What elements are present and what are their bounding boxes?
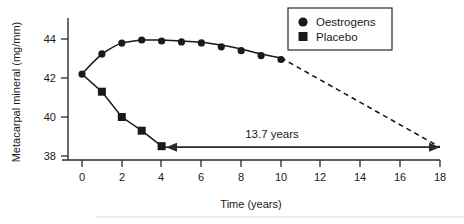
chart-legend: Oestrogens Placebo [288, 8, 392, 50]
metacarpal-mineral-line-chart: 44 42 40 38 0 2 4 6 8 10 12 14 16 [0, 0, 464, 224]
legend-marker-circle-icon [298, 17, 307, 26]
annotation-13-7-years: 13.7 years [166, 128, 440, 152]
oestrogens-point-6 [198, 39, 205, 46]
placebo-point-2 [118, 113, 126, 121]
oestrogens-point-8 [238, 47, 245, 54]
x-axis-tick-labels: 0 2 4 6 8 10 12 14 16 18 [79, 171, 446, 183]
placebo-point-4 [158, 142, 166, 150]
oestrogens-point-9 [258, 52, 265, 59]
x-tick-label-2: 2 [119, 171, 125, 183]
y-axis-title: Metacarpal mineral (mg/mm) [10, 22, 22, 163]
y-axis-tick-labels: 44 42 40 38 [44, 33, 56, 162]
x-tick-label-8: 8 [238, 171, 244, 183]
annotation-arrow-head-left [166, 143, 177, 152]
chart-figure: 44 42 40 38 0 2 4 6 8 10 12 14 16 [0, 0, 464, 224]
oestrogens-point-2 [118, 40, 125, 47]
placebo-point-3 [138, 127, 146, 135]
x-tick-label-0: 0 [79, 171, 85, 183]
oestrogens-point-1 [98, 50, 105, 57]
x-tick-label-14: 14 [354, 171, 366, 183]
y-tick-label-40: 40 [44, 111, 56, 123]
legend-label-oestrogens: Oestrogens [316, 16, 376, 28]
legend-box [288, 8, 392, 50]
x-tick-label-16: 16 [394, 171, 406, 183]
oestrogens-point-4 [158, 37, 165, 44]
x-tick-label-10: 10 [275, 171, 287, 183]
y-tick-label-42: 42 [44, 72, 56, 84]
y-tick-label-38: 38 [44, 150, 56, 162]
x-tick-label-18: 18 [434, 171, 446, 183]
annotation-arrow-head-right [429, 143, 440, 152]
oestrogens-point-10 [277, 56, 284, 63]
placebo-line [82, 74, 162, 146]
x-tick-label-6: 6 [198, 171, 204, 183]
annotation-label: 13.7 years [245, 128, 299, 140]
oestrogens-point-3 [138, 36, 145, 43]
y-tick-label-44: 44 [44, 33, 56, 45]
x-axis-ticks [82, 160, 440, 167]
y-axis-ticks [61, 39, 68, 156]
x-tick-label-4: 4 [158, 171, 164, 183]
oestrogens-point-7 [218, 43, 225, 50]
x-tick-label-12: 12 [314, 171, 326, 183]
oestrogens-point-5 [178, 38, 185, 45]
legend-marker-square-icon [299, 32, 308, 41]
oestrogens-extrapolation-line [281, 58, 440, 147]
placebo-point-1 [98, 88, 106, 96]
x-axis-title: Time (years) [220, 198, 281, 210]
legend-label-placebo: Placebo [316, 31, 358, 43]
